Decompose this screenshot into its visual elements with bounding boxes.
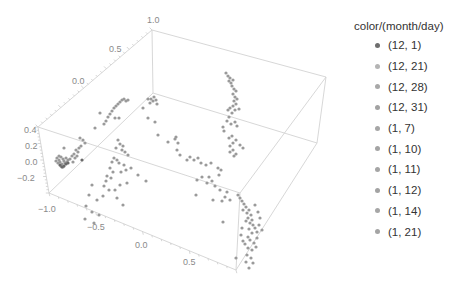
data-point bbox=[68, 157, 71, 160]
tick-mark bbox=[180, 247, 181, 249]
data-point bbox=[178, 153, 181, 156]
box-edge bbox=[240, 77, 326, 193]
tick-mark bbox=[77, 205, 78, 207]
data-point bbox=[234, 138, 237, 141]
tick-mark bbox=[227, 266, 228, 268]
legend-marker-icon bbox=[375, 167, 380, 172]
data-point bbox=[231, 92, 234, 95]
data-point bbox=[121, 144, 124, 147]
data-point bbox=[248, 221, 251, 224]
tick-mark bbox=[114, 220, 115, 222]
tick-label-bottom-axis: −0.5 bbox=[87, 222, 105, 232]
data-point bbox=[247, 266, 250, 269]
plot-box bbox=[38, 30, 326, 270]
legend-label: (12, 31) bbox=[388, 101, 428, 113]
legend-marker-icon bbox=[375, 84, 380, 89]
data-point bbox=[209, 161, 212, 164]
data-point bbox=[260, 228, 263, 231]
legend-label: (1, 10) bbox=[388, 143, 421, 155]
tick-mark bbox=[104, 66, 106, 68]
tick-mark bbox=[141, 36, 143, 38]
data-point bbox=[97, 213, 100, 216]
data-point bbox=[226, 108, 229, 111]
data-point bbox=[95, 198, 98, 201]
tick-mark bbox=[119, 56, 121, 58]
data-point bbox=[216, 166, 219, 169]
data-point bbox=[118, 183, 121, 186]
data-point bbox=[62, 146, 65, 149]
legend-label: (12, 1) bbox=[388, 39, 421, 51]
data-point bbox=[57, 154, 60, 157]
data-point bbox=[230, 111, 233, 114]
data-point bbox=[108, 166, 111, 169]
legend-label: (12, 21) bbox=[388, 60, 428, 72]
tick-mark bbox=[41, 122, 43, 124]
legend-item: (1, 10) bbox=[375, 138, 464, 159]
tick-label-top-axis: 1.0 bbox=[147, 15, 160, 25]
data-point bbox=[225, 119, 228, 122]
data-point bbox=[253, 226, 256, 229]
data-point bbox=[248, 238, 251, 241]
data-point bbox=[107, 188, 110, 191]
data-point bbox=[84, 204, 87, 207]
data-point bbox=[237, 107, 240, 110]
tick-mark bbox=[105, 216, 106, 218]
data-point bbox=[90, 183, 93, 186]
data-point bbox=[252, 241, 255, 244]
data-point bbox=[154, 98, 157, 101]
tick-label-bottom-axis: 0.5 bbox=[183, 257, 196, 267]
data-point bbox=[152, 95, 155, 98]
data-point bbox=[175, 148, 178, 151]
data-point bbox=[221, 125, 224, 128]
tick-mark bbox=[199, 255, 200, 257]
data-point bbox=[228, 144, 231, 147]
data-point bbox=[222, 129, 225, 132]
data-point bbox=[185, 158, 188, 161]
data-point bbox=[233, 120, 236, 123]
data-point bbox=[146, 116, 149, 119]
data-point bbox=[231, 141, 234, 144]
data-point bbox=[176, 141, 179, 144]
data-point bbox=[79, 144, 82, 147]
data-point bbox=[126, 153, 129, 156]
data-point bbox=[76, 150, 79, 153]
legend-marker-icon bbox=[375, 229, 380, 234]
legend-item: (12, 21) bbox=[375, 56, 464, 77]
data-point bbox=[245, 253, 248, 256]
data-point bbox=[235, 97, 238, 100]
data-point bbox=[196, 156, 199, 159]
tick-mark bbox=[133, 228, 134, 230]
tick-mark bbox=[132, 44, 134, 46]
data-point bbox=[204, 163, 207, 166]
data-point bbox=[213, 184, 216, 187]
data-point bbox=[233, 108, 236, 111]
data-point bbox=[228, 76, 231, 79]
legend-marker-icon bbox=[375, 208, 380, 213]
data-point bbox=[218, 188, 221, 191]
tick-mark bbox=[50, 114, 52, 116]
data-point bbox=[73, 156, 76, 159]
tick-mark bbox=[236, 270, 237, 273]
data-point bbox=[250, 218, 253, 221]
data-point bbox=[117, 161, 120, 164]
tick-mark bbox=[73, 94, 75, 96]
data-point bbox=[87, 193, 90, 196]
data-point bbox=[125, 181, 128, 184]
data-point bbox=[244, 219, 247, 222]
tick-mark bbox=[96, 75, 98, 77]
data-point bbox=[242, 202, 245, 205]
data-points bbox=[54, 71, 263, 269]
tick-mark bbox=[68, 201, 69, 203]
data-point bbox=[251, 223, 254, 226]
data-point bbox=[117, 116, 120, 119]
data-point bbox=[78, 136, 81, 139]
legend-marker-icon bbox=[375, 126, 380, 131]
tick-mark bbox=[46, 118, 48, 120]
tick-mark bbox=[86, 208, 87, 210]
3d-scatter-plot[interactable]: 1.00.50.00.40.20.0−0.2−1.0−0.50.00.5 bbox=[0, 0, 345, 286]
data-point bbox=[244, 205, 247, 208]
data-point bbox=[257, 223, 260, 226]
data-point bbox=[144, 179, 147, 182]
data-point bbox=[141, 106, 144, 109]
data-point bbox=[80, 158, 83, 161]
